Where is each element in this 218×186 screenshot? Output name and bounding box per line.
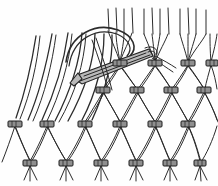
knot — [163, 160, 177, 166]
knot — [78, 121, 92, 127]
knot — [181, 60, 195, 66]
knot — [197, 87, 211, 93]
knot — [194, 160, 206, 166]
netting-diagram: Netting mesh with netting needle — [0, 0, 218, 186]
knot — [94, 160, 108, 166]
knot — [23, 160, 37, 166]
knot — [129, 160, 143, 166]
knot — [130, 87, 144, 93]
knot — [113, 60, 127, 66]
knot — [148, 121, 162, 127]
knot — [40, 121, 54, 127]
knot — [113, 121, 127, 127]
knot — [148, 60, 162, 66]
knot — [8, 121, 22, 127]
knot — [96, 87, 110, 93]
knot — [59, 160, 73, 166]
knot — [206, 60, 218, 66]
knot — [164, 87, 178, 93]
net-illustration-canvas — [0, 0, 218, 186]
knot — [181, 121, 195, 127]
